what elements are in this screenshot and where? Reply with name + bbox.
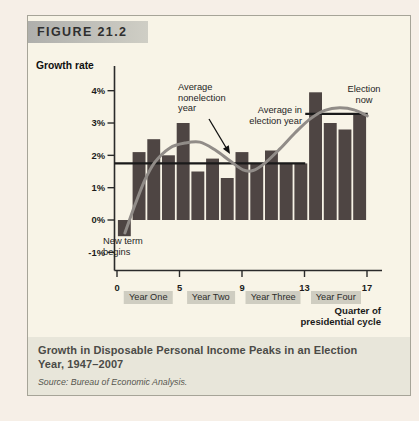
page: FIGURE 21.2 4%3%2%1%0%-1%0591317 Growth … [0,0,419,421]
bar-quarter-4 [162,155,175,220]
year-band-3: Year Three [246,291,301,304]
avg-election-annotation: Average in election year [225,105,302,126]
avg-nonelection-line-2: nonelection [178,93,226,104]
x-axis-title-line-1: Quarter of [280,305,381,316]
x-axis-title: Quarter of presidential cycle [280,305,381,327]
y-axis-title: Growth rate [36,61,94,72]
avg-nonelection-line-3: year [178,103,226,114]
nonelection-arrow-line [209,119,226,148]
bar-quarter-5 [177,123,190,220]
caption-title: Growth in Disposable Personal Income Pea… [38,344,400,371]
y-tick-label: 2% [91,150,105,161]
year-band-2: Year Two [187,291,235,304]
x-axis-title-line-2: presidential cycle [280,316,381,327]
bar-quarter-8 [221,178,234,220]
bar-quarter-12 [280,163,293,220]
y-tick-label: 4% [91,85,105,96]
y-tick-label: 1% [91,182,105,193]
avg-election-line-2: election year [225,116,302,127]
election-now-line-1: Election [338,84,390,95]
bar-quarter-15 [324,123,337,220]
election-now-annotation: Election now [338,84,390,105]
caption-source: Source: Bureau of Economic Analysis. [38,377,400,387]
bar-quarter-6 [191,172,204,221]
bar-quarter-7 [206,159,219,220]
year-band-1: Year One [124,291,172,304]
avg-nonelection-annotation: Average nonelection year [178,82,226,114]
x-tick-label: 9 [239,282,244,293]
bar-quarter-13 [294,163,307,220]
growth-chart: 4%3%2%1%0%-1%0591317 [0,0,419,340]
nonelection-arrow-head [223,145,230,154]
y-tick-label: 3% [91,117,105,128]
y-tick-label: 0% [91,214,105,225]
x-tick-label: 13 [299,282,309,293]
bar-quarter-9 [236,152,249,220]
new-term-line-1: New term [103,236,143,247]
bar-quarter-16 [339,130,352,221]
x-tick-label: 0 [114,282,119,293]
x-tick-label: 17 [362,282,372,293]
new-term-line-2: begins [103,247,143,258]
avg-nonelection-line-1: Average [178,82,226,93]
avg-election-line-1: Average in [225,105,302,116]
year-band-4: Year Four [311,291,361,304]
bar-quarter-3 [147,139,160,220]
caption-panel: Growth in Disposable Personal Income Pea… [28,337,410,395]
x-tick-label: 5 [177,282,182,293]
caption-title-line-2: Year, 1947–2007 [38,358,400,372]
caption-title-line-1: Growth in Disposable Personal Income Pea… [38,344,400,358]
new-term-annotation: New term begins [103,236,143,257]
election-now-line-2: now [338,95,390,106]
bar-quarter-17 [353,113,366,220]
